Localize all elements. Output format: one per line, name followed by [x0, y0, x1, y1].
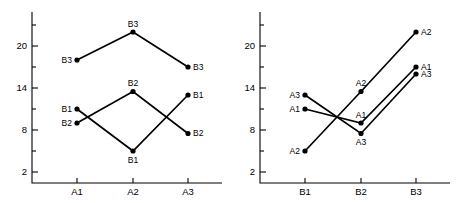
point-label-b3-0: B3: [62, 55, 73, 65]
point-label-a2-1: A2: [356, 78, 367, 88]
data-point-b2-0: [74, 120, 79, 125]
point-label-a2-2: A2: [421, 27, 432, 37]
figure-root: 281420A1A2A3B1B1B1B2B2B2B3B3B3 281420B1B…: [0, 0, 456, 203]
data-point-a2-0: [302, 148, 307, 153]
point-label-a1-0: A1: [290, 104, 301, 114]
data-point-b1-1: [130, 148, 135, 153]
data-point-b1-0: [74, 106, 79, 111]
point-label-a1-1: A1: [356, 110, 367, 120]
chart-panel-right: 281420B1B2B3A1A1A1A2A2A2A3A3A3: [228, 0, 456, 203]
point-label-b1-1: B1: [128, 155, 139, 165]
x-tick-label: A3: [182, 186, 194, 197]
data-point-a2-2: [413, 29, 418, 34]
chart-panel-left: 281420A1A2A3B1B1B1B2B2B2B3B3B3: [0, 0, 228, 203]
data-point-b2-1: [130, 89, 135, 94]
point-label-a3-2: A3: [421, 69, 432, 79]
series-line-b3: [77, 32, 188, 67]
data-point-a1-0: [302, 106, 307, 111]
y-tick-label: 8: [250, 124, 255, 135]
data-point-b2-2: [185, 131, 190, 136]
point-label-a2-0: A2: [290, 146, 301, 156]
y-tick-label: 20: [244, 40, 255, 51]
interaction-plot-right: 281420B1B2B3A1A1A1A2A2A2A3A3A3: [228, 0, 456, 203]
point-label-b2-2: B2: [193, 128, 204, 138]
data-point-b1-2: [185, 92, 190, 97]
x-tick-label: B2: [355, 186, 367, 197]
data-point-a3-0: [302, 92, 307, 97]
point-label-b1-0: B1: [62, 104, 73, 114]
y-tick-label: 20: [16, 40, 27, 51]
x-tick-label: B3: [410, 186, 422, 197]
point-label-b1-2: B1: [193, 90, 204, 100]
data-point-a1-1: [358, 120, 363, 125]
data-point-a2-1: [358, 89, 363, 94]
interaction-plot-left: 281420A1A2A3B1B1B1B2B2B2B3B3B3: [0, 0, 228, 203]
point-label-a3-1: A3: [356, 137, 367, 147]
x-tick-label: A2: [127, 186, 139, 197]
x-tick-label: B1: [299, 186, 311, 197]
series-line-b1: [77, 95, 188, 151]
data-point-a3-2: [413, 71, 418, 76]
y-tick-label: 2: [22, 166, 27, 177]
point-label-b3-2: B3: [193, 62, 204, 72]
point-label-b3-1: B3: [128, 19, 139, 29]
data-point-a3-1: [358, 131, 363, 136]
y-tick-label: 2: [250, 166, 255, 177]
data-point-b3-0: [74, 57, 79, 62]
data-point-b3-1: [130, 29, 135, 34]
y-tick-label: 14: [16, 82, 27, 93]
y-tick-label: 14: [244, 82, 255, 93]
x-tick-label: A1: [71, 186, 83, 197]
point-label-b2-1: B2: [128, 78, 139, 88]
data-point-b3-2: [185, 64, 190, 69]
data-point-a1-2: [413, 64, 418, 69]
point-label-a3-0: A3: [290, 90, 301, 100]
y-tick-label: 8: [22, 124, 27, 135]
point-label-b2-0: B2: [62, 118, 73, 128]
